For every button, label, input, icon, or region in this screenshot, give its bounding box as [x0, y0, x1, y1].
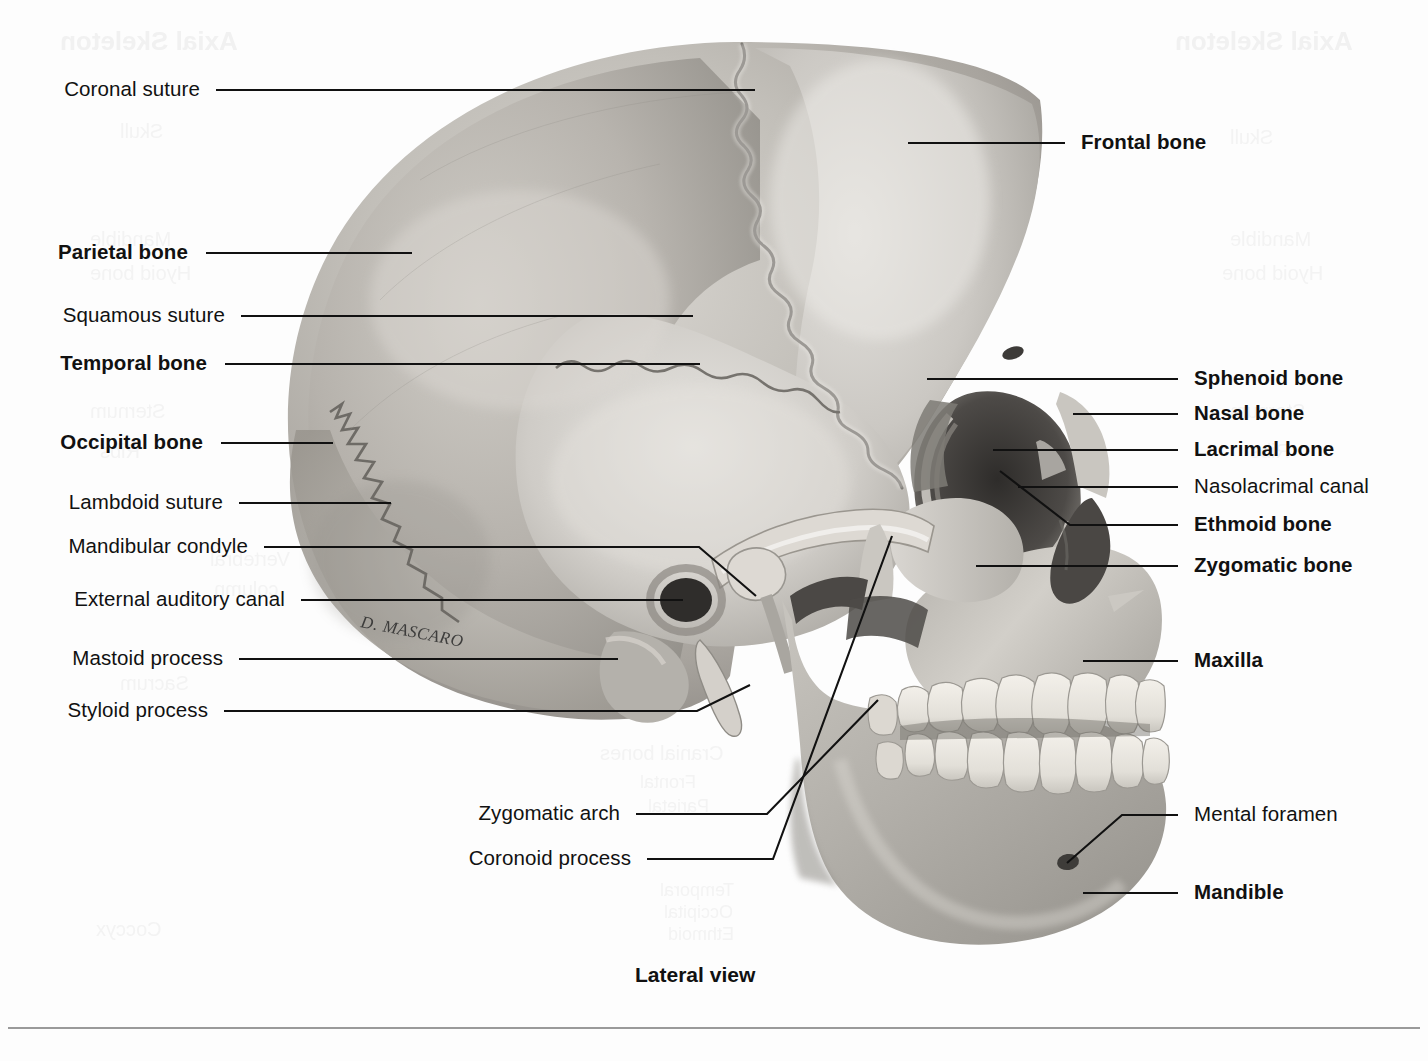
- label-nasal-bone: Nasal bone: [1194, 403, 1304, 424]
- label-lambdoid-suture: Lambdoid suture: [69, 492, 223, 513]
- label-squamous-suture: Squamous suture: [63, 305, 225, 326]
- infratemporal-shadow: [846, 596, 928, 648]
- label-coronal-suture: Coronal suture: [64, 79, 200, 100]
- label-external-auditory-canal: External auditory canal: [74, 589, 285, 610]
- bottom-divider: [8, 1027, 1420, 1029]
- label-parietal-bone: Parietal bone: [58, 242, 188, 263]
- supraorbital-notch: [1001, 344, 1026, 362]
- figure-page: Axial SkeletonSkullMandibleHyoid boneSte…: [0, 0, 1428, 1061]
- figure-caption: Lateral view: [635, 963, 755, 987]
- label-mandible: Mandible: [1194, 882, 1284, 903]
- label-styloid-process: Styloid process: [67, 700, 208, 721]
- mandibular-condyle: [727, 548, 785, 600]
- label-mandibular-condyle: Mandibular condyle: [68, 536, 248, 557]
- label-maxilla: Maxilla: [1194, 650, 1263, 671]
- label-coronoid-process: Coronoid process: [469, 848, 631, 869]
- label-occipital-bone: Occipital bone: [60, 432, 203, 453]
- label-sphenoid-bone: Sphenoid bone: [1194, 368, 1343, 389]
- label-zygomatic-arch: Zygomatic arch: [478, 803, 620, 824]
- label-frontal-bone: Frontal bone: [1081, 132, 1206, 153]
- label-lacrimal-bone: Lacrimal bone: [1194, 439, 1334, 460]
- label-mastoid-process: Mastoid process: [72, 648, 223, 669]
- label-ethmoid-bone: Ethmoid bone: [1194, 514, 1332, 535]
- label-mental-foramen: Mental foramen: [1194, 804, 1338, 825]
- label-nasolacrimal-canal: Nasolacrimal canal: [1194, 476, 1369, 497]
- label-temporal-bone: Temporal bone: [60, 353, 207, 374]
- external-auditory-canal: [660, 578, 712, 622]
- label-zygomatic-bone: Zygomatic bone: [1194, 555, 1353, 576]
